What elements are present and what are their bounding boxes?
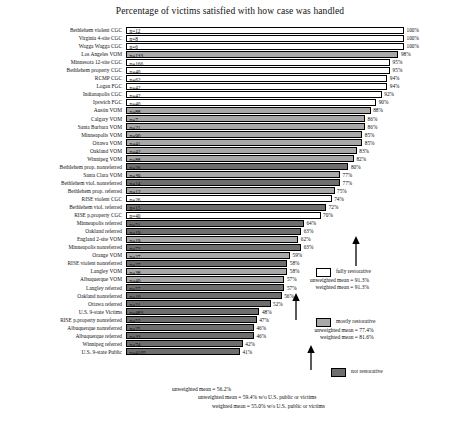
bar-row: Winnipeg referredn=7442% <box>0 340 460 348</box>
bar-value-label: 95% <box>393 59 403 65</box>
bar-category-label: Austin VOM <box>0 107 126 113</box>
arrow-up-fully-icon <box>351 236 361 266</box>
bar-row: U.S. 9-state Victimsn=48348% <box>0 308 460 316</box>
bar-track: n=2674% <box>126 195 404 203</box>
bar-track: n=6100% <box>126 42 404 50</box>
bar: n=8 <box>126 35 404 42</box>
bar-sample-size-label: n=4105 <box>130 350 146 356</box>
bar-row: Langley referredn=5757% <box>0 284 460 292</box>
bar-category-label: Minneapolis nonreferred <box>0 244 126 250</box>
bar: n=72 <box>126 244 301 251</box>
bar: n=42 <box>126 147 357 154</box>
bar: n=7 <box>126 115 365 122</box>
bar-row: Los Angeles VOMn=13398% <box>0 50 460 58</box>
bar-track: n=4070% <box>126 211 404 219</box>
bar-category-label: Bethlehem prop. nonreferred <box>0 164 126 170</box>
bar-value-label: 86% <box>368 124 378 130</box>
bar-value-label: 77% <box>343 180 353 186</box>
bar-row: Bethlehem prop. referredn=1275% <box>0 187 460 195</box>
bar: n=41 <box>126 139 362 146</box>
legend-fully-head: fully restorative <box>316 268 371 277</box>
bar-category-label: Minneapolis VOM <box>0 132 126 138</box>
bar-row: Logan FGCn=4294% <box>0 82 460 90</box>
bar: n=15 <box>126 204 326 211</box>
bar-value-label: 94% <box>390 83 400 89</box>
bar-value-label: 85% <box>365 140 375 146</box>
bar-row: Calgary VOMn=786% <box>0 115 460 123</box>
bar-value-label: 58% <box>290 268 300 274</box>
bar-row: England 2-site VOMn=1962% <box>0 235 460 243</box>
bar: n=38 <box>126 268 287 275</box>
legend-swatch-mostly-icon <box>316 318 331 327</box>
bar: n=12 <box>126 27 404 34</box>
bar-value-label: 63% <box>304 244 314 250</box>
bar-value-label: 94% <box>390 75 400 81</box>
legend-fully-unweighted: unweighted mean = 91.3% <box>290 277 371 285</box>
bar-value-label: 92% <box>384 91 394 97</box>
bar-row: RISE violent CGCn=2674% <box>0 195 460 203</box>
bar-category-label: Oakland referred <box>0 228 126 234</box>
bar: n=62 <box>126 75 387 82</box>
bar-value-label: 80% <box>351 164 361 170</box>
legend-fully-weighted: weighted mean = 91.3% <box>290 284 371 292</box>
bar-row: Winnipeg VOMn=8882% <box>0 155 460 163</box>
bar-row: Minneapolis VOMn=9085% <box>0 131 460 139</box>
bar-row: Bethlehem prop. nonreferredn=2680% <box>0 163 460 171</box>
bar-track: n=2680% <box>126 163 404 171</box>
bar-category-label: Albuquerque nonreferred <box>0 325 126 331</box>
bar-row: Bethlehem viol. referredn=1572% <box>0 203 460 211</box>
legend-swatch-not-icon <box>331 368 346 377</box>
bar: n=52 <box>126 316 257 323</box>
bar-category-label: England 2-site VOM <box>0 236 126 242</box>
bar-value-label: 59% <box>293 252 303 258</box>
bar-row: Ottawa VOMn=4185% <box>0 139 460 147</box>
bar-category-label: RISE violent nonreferred <box>0 260 126 266</box>
bar: n=40 <box>126 212 321 219</box>
bar: n=39 <box>126 171 340 178</box>
chart-title: Percentage of victims satisfied with how… <box>0 6 460 16</box>
bar: n=14 <box>126 179 340 186</box>
bar-category-label: Langley referred <box>0 285 126 291</box>
bar-track: n=8882% <box>126 155 404 163</box>
bar-category-label: Indianapolis CGC <box>0 91 126 97</box>
bar: n=90 <box>126 131 362 138</box>
bar-category-label: Oakland VOM <box>0 148 126 154</box>
bar-value-label: 100% <box>407 43 419 49</box>
bar-value-label: 42% <box>245 341 255 347</box>
bar-row: RISE p.property nonreferredn=5247% <box>0 316 460 324</box>
bar-value-label: 77% <box>343 172 353 178</box>
bar-value-label: 90% <box>379 99 389 105</box>
bar-category-label: Ottawa VOM <box>0 140 126 146</box>
bar-track: n=12100% <box>126 26 404 34</box>
bar-row: Albuquerque nonreferredn=2546% <box>0 324 460 332</box>
bar: n=42 <box>126 83 387 90</box>
bar-track: n=7263% <box>126 243 404 251</box>
bar: n=74 <box>126 340 243 347</box>
bar-value-label: 82% <box>356 156 366 162</box>
bar-row: Wagga Wagga CGCn=6100% <box>0 42 460 50</box>
bar: n=133 <box>126 51 398 58</box>
bar-category-label: Calgary VOM <box>0 116 126 122</box>
bar-row: Bethlehem property CGCn=4095% <box>0 66 460 74</box>
footnote-unweighted-mean: unweighted mean = 56.2% <box>172 385 325 393</box>
bar-track: n=2759% <box>126 251 404 259</box>
bar: n=88 <box>126 107 371 114</box>
bar-category-label: Bethlehem violent CGC <box>0 27 126 33</box>
bar-value-label: 62% <box>301 236 311 242</box>
legend-mostly-label: mostly restorative <box>336 318 376 326</box>
legend-fully-restorative: fully restorative unweighted mean = 91.3… <box>316 268 371 292</box>
bar-track: n=1477% <box>126 179 404 187</box>
bar-row: Bethlehem viol. nonreferredn=1477% <box>0 179 460 187</box>
bar-track: n=4294% <box>126 82 404 90</box>
bar-category-label: Langley VOM <box>0 268 126 274</box>
bar-row: Albuquerque referredn=3346% <box>0 332 460 340</box>
bar: n=40 <box>126 67 390 74</box>
bar-category-label: Minneapolis referred <box>0 220 126 226</box>
footnote-weighted-mean-excl: weighted mean = 55.0% w/o U.S. public or… <box>172 402 325 410</box>
bar: n=19 <box>126 228 301 235</box>
bar-category-label: RISE p.property nonreferred <box>0 317 126 323</box>
bar-track: n=1056% <box>126 292 404 300</box>
bar-value-label: 58% <box>290 260 300 266</box>
bar-value-label: 46% <box>256 325 266 331</box>
bar-value-label: 72% <box>329 204 339 210</box>
